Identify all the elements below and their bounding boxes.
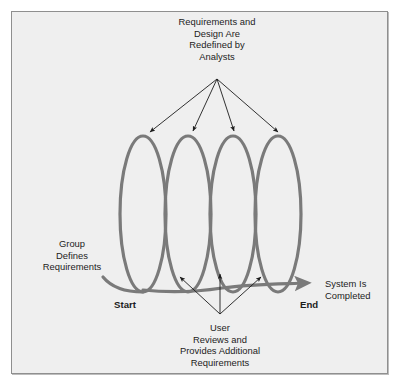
bottom-arrow-3 xyxy=(220,277,261,314)
top-arrow-fan xyxy=(150,79,278,132)
label-end: End xyxy=(300,299,340,311)
label-user-reviews: User Reviews and Provides Additional Req… xyxy=(140,322,300,368)
top-arrow-4 xyxy=(217,79,278,132)
spiral-loop-1 xyxy=(120,136,166,292)
label-system-is-completed: System Is Completed xyxy=(325,278,395,301)
figure-root: Requirements and Design Are Redefined by… xyxy=(0,0,400,388)
label-requirements-redefined: Requirements and Design Are Redefined by… xyxy=(142,16,292,62)
spiral-loop-2 xyxy=(165,136,211,292)
spiral-loop-4 xyxy=(255,136,301,292)
spiral-loop-3 xyxy=(210,136,256,292)
top-arrow-1 xyxy=(150,79,217,132)
label-group-defines-requirements: Group Defines Requirements xyxy=(27,238,117,273)
label-start: Start xyxy=(114,299,164,311)
spiral-path-group xyxy=(103,136,306,292)
top-arrow-2 xyxy=(193,79,217,131)
